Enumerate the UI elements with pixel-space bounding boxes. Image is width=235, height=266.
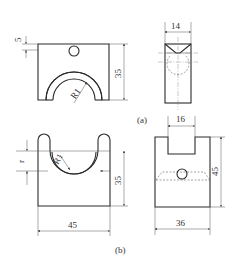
dim-height-b: 35 [113, 176, 123, 186]
dim-width-b-side: 36 [176, 218, 186, 228]
part-a-side-view: 14 [158, 21, 198, 110]
dim-slot-width: 16 [176, 114, 186, 124]
dim-depth-r: r [16, 160, 26, 163]
technical-drawing: R1 5 35 14 (a) R1 [0, 0, 235, 266]
hole-icon [69, 46, 79, 56]
radius-label-b: R1 [51, 152, 65, 166]
label-b: (b) [115, 245, 126, 255]
dim-hole-offset: 5 [13, 37, 23, 42]
dim-height-b-side: 45 [210, 167, 220, 177]
label-a: (a) [137, 115, 147, 125]
hole-icon-b [177, 169, 187, 179]
radius-label-a: R1 [68, 86, 82, 100]
dim-height-a: 35 [113, 69, 123, 79]
dim-width-a: 14 [171, 21, 181, 31]
dim-width-b: 45 [68, 220, 78, 230]
part-b-front-view: R1 r 35 45 [16, 134, 128, 236]
part-a-front-view: R1 5 35 [13, 36, 128, 103]
part-b-side-view: 16 45 36 [155, 114, 225, 235]
